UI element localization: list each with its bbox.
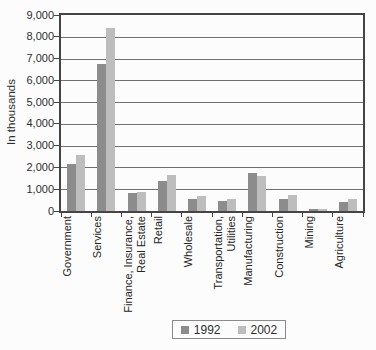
x-category-label-government: Government xyxy=(61,216,91,320)
x-category-label-services: Services xyxy=(91,216,121,320)
x-category-label-retail: Retail xyxy=(152,216,182,320)
legend-item-1992: 1992 xyxy=(181,323,221,337)
bar-1992-transportation-utilities xyxy=(218,201,227,211)
bar-2002-agriculture xyxy=(348,199,357,211)
y-tick-label-0: 0 xyxy=(0,205,54,218)
y-tick-mark xyxy=(54,102,59,103)
x-category-label-wholesale: Wholesale xyxy=(182,216,212,320)
bar-1992-services xyxy=(97,64,106,211)
x-category-label-transportation-utilities: Transportation, Utilities xyxy=(212,216,242,320)
bar-1992-finance-insurance-real-estate xyxy=(128,193,137,211)
y-tick-mark xyxy=(54,211,59,212)
y-tick-mark xyxy=(54,145,59,146)
y-tick-label-6000: 6,000 xyxy=(0,74,54,87)
x-category-label-manufacturing: Manufacturing xyxy=(242,216,272,320)
bar-1992-manufacturing xyxy=(248,173,257,211)
legend-label-2002: 2002 xyxy=(251,323,278,337)
y-tick-mark xyxy=(54,58,59,59)
y-tick-mark xyxy=(54,36,59,37)
bar-1992-government xyxy=(67,164,76,211)
x-category-label-mining: Mining xyxy=(303,216,333,320)
bar-1992-retail xyxy=(158,181,167,211)
y-tick-mark xyxy=(54,15,59,16)
bar-2002-mining xyxy=(318,209,327,211)
legend-item-2002: 2002 xyxy=(238,323,278,337)
bar-2002-services xyxy=(106,28,115,211)
bar-2002-transportation-utilities xyxy=(227,199,236,211)
bar-2002-manufacturing xyxy=(257,176,266,211)
y-tick-label-7000: 7,000 xyxy=(0,52,54,65)
chart-figure: In thousands 19922002 01,0002,0003,0004,… xyxy=(0,0,376,350)
bar-2002-construction xyxy=(288,195,297,211)
x-category-label-agriculture: Agriculture xyxy=(333,216,363,320)
y-tick-label-9000: 9,000 xyxy=(0,9,54,22)
x-category-label-finance-insurance-real-estate: Finance, Insurance, Real Estate xyxy=(122,216,152,320)
plot-area xyxy=(59,13,365,213)
y-tick-label-4000: 4,000 xyxy=(0,117,54,130)
bar-2002-finance-insurance-real-estate xyxy=(137,192,146,211)
y-tick-mark xyxy=(54,123,59,124)
bar-1992-construction xyxy=(279,199,288,211)
y-tick-label-3000: 3,000 xyxy=(0,139,54,152)
legend-swatch-1992 xyxy=(181,326,189,334)
y-tick-label-2000: 2,000 xyxy=(0,161,54,174)
bar-1992-wholesale xyxy=(188,199,197,211)
bar-2002-government xyxy=(76,155,85,211)
legend-swatch-2002 xyxy=(238,326,246,334)
y-tick-label-5000: 5,000 xyxy=(0,96,54,109)
bar-1992-mining xyxy=(309,209,318,211)
y-tick-mark xyxy=(54,189,59,190)
bar-2002-wholesale xyxy=(197,196,206,211)
legend: 19922002 xyxy=(172,320,286,339)
y-tick-label-8000: 8,000 xyxy=(0,30,54,43)
y-tick-mark xyxy=(54,167,59,168)
y-tick-label-1000: 1,000 xyxy=(0,183,54,196)
bar-1992-agriculture xyxy=(339,202,348,211)
bar-2002-retail xyxy=(167,175,176,211)
legend-label-1992: 1992 xyxy=(194,323,221,337)
y-tick-mark xyxy=(54,80,59,81)
x-category-label-construction: Construction xyxy=(273,216,303,320)
